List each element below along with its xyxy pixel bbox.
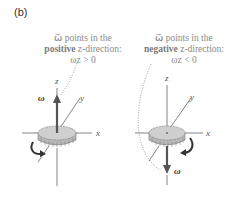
right-gear xyxy=(149,126,185,147)
left-omega-label: ω⃗ xyxy=(38,93,52,103)
left-omega-arrowhead xyxy=(53,94,61,103)
right-pointer-dotted xyxy=(138,64,160,170)
left-pointer-dotted xyxy=(60,63,77,96)
left-z-label: z xyxy=(54,76,59,86)
right-y-axis xyxy=(170,98,191,128)
right-omega-label: ω⃗ xyxy=(174,166,188,176)
right-y-label: y xyxy=(189,92,194,102)
right-figure: z y x ω⃗ xyxy=(135,64,210,185)
left-y-label: y xyxy=(79,93,84,103)
right-x-label: x xyxy=(205,128,210,138)
right-z-label: z xyxy=(164,73,169,83)
left-figure: z y x ω⃗ xyxy=(22,63,100,186)
left-y-axis xyxy=(60,98,80,128)
rotation-diagram: z y x ω⃗ z y x ω⃗ xyxy=(0,0,233,198)
left-x-label: x xyxy=(95,128,100,138)
right-y-axis-neg xyxy=(149,146,159,161)
right-omega-arrowhead xyxy=(163,165,171,174)
